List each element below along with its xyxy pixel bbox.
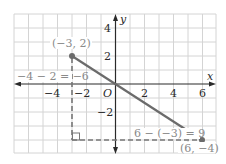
origin-label: O bbox=[103, 87, 112, 100]
x-tick-label: 6 bbox=[199, 87, 206, 100]
x-tick-label: 4 bbox=[170, 87, 177, 100]
y-axis-arrow-up-icon bbox=[113, 14, 118, 21]
x-tick-label: −2 bbox=[74, 87, 90, 100]
y-tick-label: 4 bbox=[104, 22, 111, 35]
y-tick-label: 2 bbox=[104, 50, 111, 63]
point-a bbox=[69, 53, 75, 59]
x-tick-label: −4 bbox=[44, 87, 60, 100]
coordinate-plane: y x O −4 −2 2 4 6 4 2 −2 (−3, 2) (6, −4)… bbox=[0, 0, 226, 164]
y-axis-label: y bbox=[119, 13, 127, 26]
y-tick-label: −2 bbox=[97, 106, 113, 119]
vertical-leg-annotation: −4 − 2 = −6 bbox=[17, 70, 89, 83]
x-axis-label: x bbox=[207, 70, 214, 83]
point-a-label: (−3, 2) bbox=[52, 37, 91, 50]
x-tick-label: 2 bbox=[141, 87, 148, 100]
right-angle-marker bbox=[73, 133, 80, 140]
horizontal-leg-annotation: 6 − (−3) = 9 bbox=[134, 127, 205, 140]
point-b-label: (6, −4) bbox=[180, 142, 219, 155]
